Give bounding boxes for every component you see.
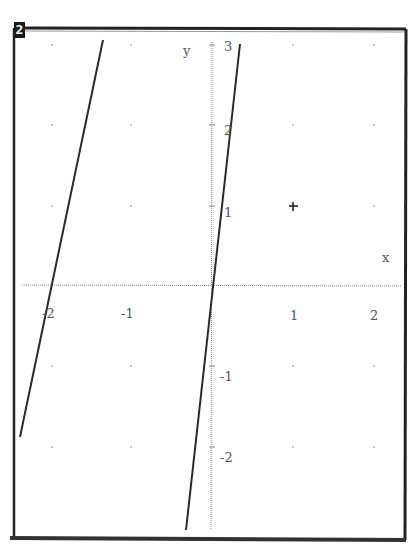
x-tick-2: 2 <box>370 309 378 322</box>
x-axis <box>22 285 402 286</box>
x-tick-neg2: -2 <box>42 307 55 320</box>
axes <box>22 42 402 530</box>
y-tick-2: 2 <box>224 124 232 137</box>
curve-left <box>20 40 103 437</box>
crosshair-cursor <box>289 202 298 211</box>
y-tick-neg1: -1 <box>220 370 233 383</box>
y-tick-neg2: -2 <box>220 451 233 464</box>
axis-ticks <box>209 45 215 447</box>
graph-window <box>0 0 419 553</box>
graph-number-badge: 2 <box>14 22 25 38</box>
y-tick-1: 1 <box>224 206 232 219</box>
x-tick-neg1: -1 <box>121 307 134 320</box>
y-tick-3: 3 <box>224 40 232 53</box>
y-axis-label: y <box>183 44 190 57</box>
grid-dots <box>51 44 375 448</box>
x-axis-label: x <box>382 251 389 264</box>
window-frame <box>10 28 406 540</box>
x-tick-1: 1 <box>290 309 298 322</box>
y-axis <box>211 42 212 530</box>
